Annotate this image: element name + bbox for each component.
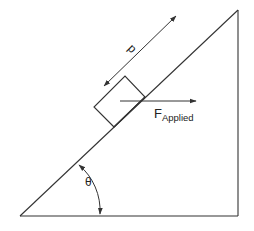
distance-arrow	[104, 16, 176, 86]
incline-diagram: FApplied d θ	[0, 0, 254, 231]
applied-force-label: FApplied	[154, 106, 194, 123]
angle-label: θ	[85, 175, 92, 189]
angle-arc	[79, 165, 100, 214]
